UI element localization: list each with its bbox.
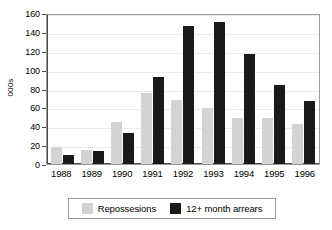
y-axis-tick-label: 140 xyxy=(25,28,40,37)
bar xyxy=(153,77,164,164)
x-axis-tick-labels: 198819891990199119921993199419951996 xyxy=(46,168,320,180)
x-axis-tick-label: 1996 xyxy=(290,168,320,180)
bar xyxy=(171,100,182,164)
bar xyxy=(141,93,152,164)
bar xyxy=(51,147,62,164)
y-axis-tick-label: 120 xyxy=(25,47,40,56)
legend-label: 12+ month arrears xyxy=(186,203,262,214)
bar xyxy=(81,150,92,164)
bar xyxy=(262,118,273,164)
bar-group xyxy=(289,15,319,164)
bar-group xyxy=(107,15,137,164)
y-axis-tick-label: 0 xyxy=(35,161,40,170)
bar-chart-figure: 000s 160140120100806040200 1988198919901… xyxy=(0,0,332,230)
x-axis-tick-label: 1988 xyxy=(46,168,76,180)
y-axis-tick-label: 160 xyxy=(25,10,40,19)
bar-group xyxy=(198,15,228,164)
x-axis-tick-label: 1994 xyxy=(229,168,259,180)
x-axis-tick-label: 1990 xyxy=(107,168,137,180)
bar xyxy=(63,155,74,164)
bar xyxy=(214,22,225,164)
legend-label: Repossesions xyxy=(98,203,156,214)
x-axis-tick-label: 1992 xyxy=(168,168,198,180)
y-axis-tick-label: 40 xyxy=(30,123,40,132)
bar-group xyxy=(228,15,258,164)
x-axis-tick-label: 1993 xyxy=(198,168,228,180)
bar xyxy=(292,124,303,164)
bar xyxy=(232,118,243,164)
x-axis-tick-label: 1995 xyxy=(259,168,289,180)
legend-swatch-icon xyxy=(170,203,181,214)
bar-group xyxy=(138,15,168,164)
y-axis-tick-label: 20 xyxy=(30,142,40,151)
y-axis-tick-label: 100 xyxy=(25,66,40,75)
plot-area xyxy=(46,14,320,165)
bar-group xyxy=(77,15,107,164)
bar xyxy=(93,151,104,164)
bar-group xyxy=(47,15,77,164)
bar xyxy=(244,54,255,164)
y-axis-tick-label: 60 xyxy=(30,104,40,113)
bar xyxy=(304,101,315,164)
legend-item[interactable]: 12+ month arrears xyxy=(170,203,262,214)
bar-groups xyxy=(47,15,319,164)
x-axis-tick-label: 1991 xyxy=(137,168,167,180)
bar-group xyxy=(168,15,198,164)
chart-legend: Repossesions12+ month arrears xyxy=(68,198,276,219)
bar xyxy=(111,122,122,164)
legend-item[interactable]: Repossesions xyxy=(82,203,156,214)
x-axis-tick-label: 1989 xyxy=(76,168,106,180)
y-axis-tick-mark xyxy=(42,165,46,166)
y-axis-tick-labels: 160140120100806040200 xyxy=(14,14,40,165)
bar xyxy=(274,85,285,164)
legend-swatch-icon xyxy=(82,203,93,214)
y-axis-tick-label: 80 xyxy=(30,85,40,94)
bar xyxy=(183,26,194,164)
bar xyxy=(123,133,134,164)
bar-group xyxy=(259,15,289,164)
bar xyxy=(202,108,213,164)
